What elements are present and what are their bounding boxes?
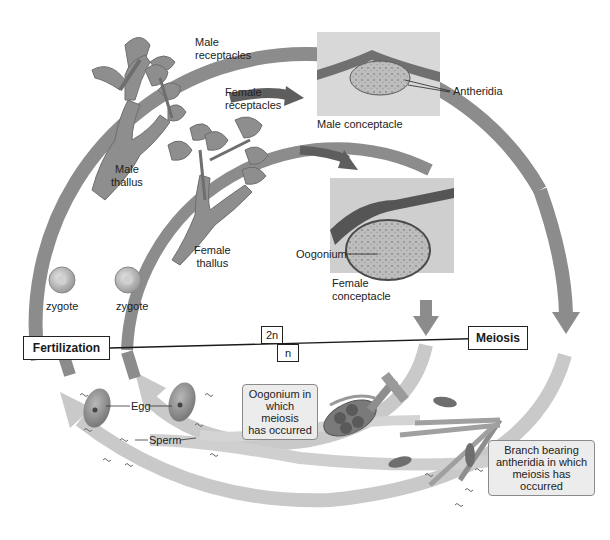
egg-nucleus-right [178, 403, 183, 408]
antheridia-branch-callout: Branch bearing antheridia in which meios… [488, 440, 595, 496]
zygote-label-left: zygote [46, 300, 78, 313]
female-conceptacle-micrograph [330, 178, 454, 280]
oogonium-label: Oogonium [296, 248, 347, 261]
oogonium-meiosis-callout: Oogonium in which meiosis has occurred [242, 384, 318, 440]
male-thallus-label: Male thallus [111, 163, 143, 189]
fucus-life-cycle-diagram: Male receptacles Female receptacles Male… [0, 0, 610, 540]
sperm-label: Sperm [149, 434, 181, 447]
phase-divider-line [110, 338, 498, 348]
antheridia-branch-illustration [387, 395, 500, 485]
zygote-nucleus-left [57, 275, 67, 285]
zygote-stem-right [127, 352, 135, 378]
male-receptacles-label: Male receptacles [195, 36, 251, 62]
egg-label: Egg [131, 400, 151, 413]
female-receptacles-label: Female receptacles [225, 86, 281, 112]
meiosis-box: Meiosis [468, 326, 528, 350]
female-conceptacle-label: Female conceptacle [332, 277, 391, 303]
fertilization-box: Fertilization [23, 336, 110, 360]
female-thallus-label: Female thallus [194, 244, 231, 270]
zygote-label-right: zygote [116, 300, 148, 313]
zygote-nucleus-right [123, 275, 133, 285]
antheridia-label: Antheridia [453, 85, 503, 98]
male-conceptacle-label: Male conceptacle [317, 118, 403, 131]
male-conceptacle-micrograph [317, 32, 450, 116]
diploid-2n-box: 2n [261, 326, 283, 344]
egg-nucleus-left [93, 408, 98, 413]
outer-diploid-arrow [36, 54, 580, 360]
haploid-n-box: n [277, 344, 299, 362]
